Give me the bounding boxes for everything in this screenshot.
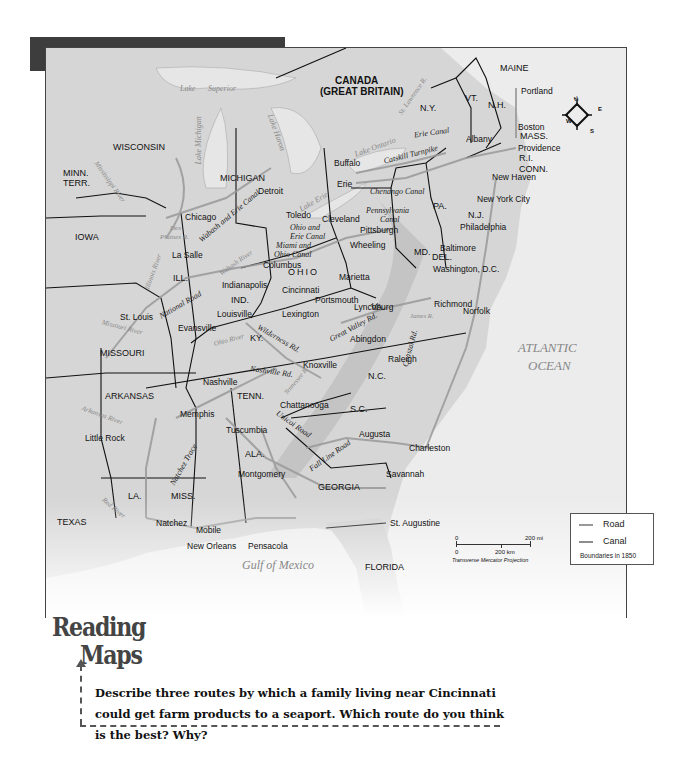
water-des-plaines: Des xyxy=(170,224,181,232)
state-nj: N.J. xyxy=(468,210,484,220)
state-florida: FLORIDA xyxy=(365,562,404,572)
state-michigan: MICHIGAN xyxy=(220,173,265,183)
city-washington: Washington, D.C. xyxy=(433,264,499,274)
city-nashville: Nashville xyxy=(203,377,238,387)
compass-s: S xyxy=(590,128,594,134)
state-maine: MAINE xyxy=(500,63,529,73)
water-gulf-of-mexico: Gulf of Mexico xyxy=(242,558,314,573)
state-wisconsin: WISCONSIN xyxy=(113,142,165,152)
city-norfolk: Norfolk xyxy=(463,306,490,316)
scale-km-label: 200 km xyxy=(495,549,515,555)
city-tuscumbia: Tuscumbia xyxy=(226,425,267,435)
city-new-york: New York City xyxy=(477,194,530,204)
city-cleveland: Cleveland xyxy=(322,214,360,224)
city-pensacola: Pensacola xyxy=(248,541,288,551)
state-missouri: MISSOURI xyxy=(100,348,145,358)
state-miss: MISS. xyxy=(171,491,196,501)
city-indianapolis: Indianapolis xyxy=(222,280,267,290)
city-chicago: Chicago xyxy=(185,212,216,222)
city-baltimore: Baltimore xyxy=(440,243,476,253)
city-louisville: Louisville xyxy=(217,309,252,319)
city-cincinnati: Cincinnati xyxy=(282,285,319,295)
city-natchez: Natchez xyxy=(156,518,187,528)
state-ill: ILL. xyxy=(173,273,188,283)
state-iowa: IOWA xyxy=(75,232,99,242)
route-pennsylvania-canal: Pennsylvania xyxy=(366,206,409,215)
city-buffalo: Buffalo xyxy=(334,158,360,168)
city-augusta: Augusta xyxy=(359,429,390,439)
dashed-border-left xyxy=(80,665,82,725)
road-swatch-icon xyxy=(579,524,593,526)
state-arkansas: ARKANSAS xyxy=(105,391,154,401)
city-pittsburgh: Pittsburgh xyxy=(360,225,398,235)
water-lake-superior: Lake xyxy=(180,84,196,93)
water-lake-superior-2: Superior xyxy=(208,84,236,93)
city-new-orleans: New Orleans xyxy=(187,541,236,551)
route-ohio-erie-canal-2: Erie Canal xyxy=(290,232,325,241)
water-atlantic-ocean-2: OCEAN xyxy=(528,358,571,374)
water-atlantic-ocean: ATLANTIC xyxy=(518,340,577,356)
reading-maps-question: Describe three routes by which a family … xyxy=(95,683,515,746)
city-evansville: Evansville xyxy=(178,323,216,333)
water-des-plaines-2: Plaines R. xyxy=(160,233,189,241)
route-miami-ohio-canal: Miami and xyxy=(276,241,311,250)
compass-w: W xyxy=(566,118,572,124)
city-st-louis: St. Louis xyxy=(120,312,153,322)
state-mass: MASS. xyxy=(520,131,548,141)
city-la-salle: La Salle xyxy=(172,250,203,260)
label-canada: CANADA xyxy=(335,75,378,86)
city-charleston: Charleston xyxy=(409,443,450,453)
route-ohio-erie-canal: Ohio and xyxy=(290,223,320,232)
city-new-haven: New Haven xyxy=(492,172,536,182)
city-marietta: Marietta xyxy=(339,272,370,282)
state-la: LA. xyxy=(128,491,142,501)
reading-maps-heading: Reading xyxy=(52,612,145,642)
route-pennsylvania-canal-2: Canal xyxy=(380,215,400,224)
route-miami-ohio-canal-2: Ohio Canal xyxy=(274,250,312,259)
state-georgia: GEORGIA xyxy=(318,482,360,492)
city-toledo: Toledo xyxy=(286,210,311,220)
city-lexington: Lexington xyxy=(282,309,319,319)
state-ky: KY. xyxy=(250,333,263,343)
water-lake-michigan: Lake Michigan xyxy=(194,116,203,164)
canal-swatch-icon xyxy=(579,541,593,543)
city-montgomery: Montgomery xyxy=(238,469,285,479)
state-ala: ALA. xyxy=(245,449,265,459)
city-abingdon: Abingdon xyxy=(350,334,386,344)
state-sc: S.C. xyxy=(350,404,368,414)
state-texas: TEXAS xyxy=(57,517,87,527)
state-md: MD. xyxy=(414,247,431,257)
city-st-augustine: St. Augustine xyxy=(390,518,440,528)
state-minn-terr: MINN. xyxy=(63,168,89,178)
scale-projection: Transverse Mercator Projection xyxy=(452,557,528,563)
city-boston: Boston xyxy=(518,122,544,132)
city-savannah: Savannah xyxy=(386,469,424,479)
state-nh: N.H. xyxy=(488,100,506,110)
reading-maps-heading-2: Maps xyxy=(80,640,142,670)
state-del: DEL. xyxy=(432,252,452,262)
city-columbus: Columbus xyxy=(263,260,301,270)
state-tenn: TENN. xyxy=(237,391,264,401)
legend-road: Road xyxy=(579,519,625,529)
city-providence: Providence xyxy=(518,143,561,153)
state-ny: N.Y. xyxy=(420,103,436,113)
city-portsmouth: Portsmouth xyxy=(315,295,358,305)
scale-mi-label: 200 mi xyxy=(525,535,543,541)
route-chenango-canal: Chenango Canal xyxy=(370,187,424,196)
map-fade xyxy=(46,498,626,618)
legend-note: Boundaries in 1850 xyxy=(580,552,636,559)
legend-canal: Canal xyxy=(579,536,627,546)
state-vt: VT. xyxy=(465,93,478,103)
city-wheeling: Wheeling xyxy=(350,240,385,250)
city-philadelphia: Philadelphia xyxy=(460,222,506,232)
city-erie: Erie xyxy=(337,179,352,189)
compass-e: E xyxy=(598,106,602,112)
scale-km-zero: 0 xyxy=(455,549,458,555)
city-portland: Portland xyxy=(521,86,553,96)
city-mobile: Mobile xyxy=(196,525,221,535)
city-memphis: Memphis xyxy=(180,409,214,419)
state-ri: R.I. xyxy=(519,153,533,163)
map-legend: Road Canal Boundaries in 1850 xyxy=(570,513,654,565)
city-little-rock: Little Rock xyxy=(85,433,125,443)
water-james-river: James R. xyxy=(410,312,433,319)
